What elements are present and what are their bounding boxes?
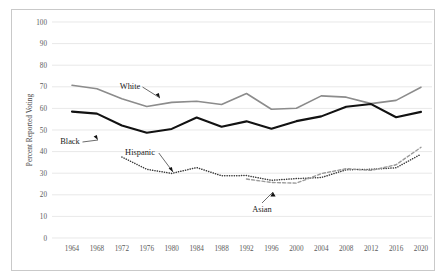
annotation-label-asian: Asian xyxy=(252,205,272,214)
y-tick-label: 20 xyxy=(40,191,48,199)
series-line-hispanic xyxy=(122,154,421,180)
x-tick-label: 2000 xyxy=(289,245,304,253)
x-tick-label: 1972 xyxy=(115,245,130,253)
x-tick-label: 1976 xyxy=(140,245,155,253)
x-tick-label: 2004 xyxy=(314,245,329,253)
x-tick-label: 2012 xyxy=(364,245,379,253)
y-tick-label: 60 xyxy=(40,105,48,113)
x-tick-label: 1988 xyxy=(214,245,229,253)
annotation-leader xyxy=(83,140,99,142)
series-line-asian xyxy=(247,147,422,183)
series-group xyxy=(72,85,421,183)
y-axis-title: Percent Reported Voting xyxy=(25,94,34,167)
x-tick-label: 2020 xyxy=(414,245,429,253)
y-tick-label: 0 xyxy=(43,235,47,243)
y-tick-label: 40 xyxy=(40,148,48,156)
chart-figure: 0102030405060708090100196419681972197619… xyxy=(0,0,447,280)
x-tick-label: 1964 xyxy=(65,245,80,253)
annotation-leader xyxy=(262,192,273,203)
x-tick-label: 1980 xyxy=(165,245,180,253)
annotation-leader xyxy=(143,87,161,98)
x-tick-label: 2008 xyxy=(339,245,354,253)
annotation-arrowhead xyxy=(169,167,173,172)
y-tick-label: 100 xyxy=(36,19,47,27)
annotation-arrowhead xyxy=(94,135,98,140)
y-tick-label: 30 xyxy=(40,170,48,178)
x-tick-label: 1984 xyxy=(189,245,204,253)
x-tick-label: 1968 xyxy=(90,245,105,253)
y-gridlines: 0102030405060708090100 xyxy=(36,19,432,243)
y-tick-label: 50 xyxy=(40,127,48,135)
y-tick-label: 10 xyxy=(40,213,48,221)
line-chart-canvas: 0102030405060708090100196419681972197619… xyxy=(0,0,447,280)
annotation-label-white: White xyxy=(120,82,141,91)
x-tick-label: 1992 xyxy=(239,245,254,253)
x-tick-label: 2016 xyxy=(389,245,404,253)
x-tick-labels: 1964196819721976198019841988199219962000… xyxy=(65,245,429,253)
y-tick-label: 90 xyxy=(40,40,48,48)
y-tick-label: 80 xyxy=(40,62,48,70)
x-tick-label: 1996 xyxy=(264,245,279,253)
series-annotations: WhiteBlackHispanicAsian xyxy=(60,82,275,214)
annotation-label-hispanic: Hispanic xyxy=(125,148,155,157)
annotation-label-black: Black xyxy=(60,137,80,146)
y-tick-label: 70 xyxy=(40,83,48,91)
